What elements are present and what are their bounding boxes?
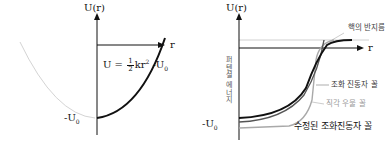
nuclear-radius-label: 핵의 반지름	[348, 24, 385, 32]
legend-modified-harmonic: 수정된 조화진동자 꼴	[294, 122, 372, 131]
legend-harmonic-oscillator: 조화 진동자 꼴	[331, 81, 378, 89]
u-axis-arrow-icon	[236, 13, 242, 20]
harmonic-potential-plot	[0, 0, 194, 152]
harmonic-curve	[97, 38, 165, 118]
potential-energy-axis-title: 퍼텐셜 에너지	[224, 56, 231, 104]
u-axis-label: U(r)	[226, 3, 247, 13]
square-well-curve	[239, 40, 334, 128]
u-axis-arrow-icon	[94, 13, 100, 20]
nuclear-potential-comparison-diagram: U(r) r -U0 퍼텐셜 에너지 핵의 반지름 조화 진동자 꼴 직각 우물…	[194, 0, 388, 152]
min-label: -U0	[202, 119, 218, 131]
leader-square	[312, 102, 324, 104]
harmonic-potential-diagram: U(r) r -U0 U = 12kr2 -U0	[0, 0, 194, 152]
r-axis-arrow-icon	[357, 45, 364, 51]
fraction: 12	[127, 58, 133, 73]
legend-square-well: 직각 우물 꼴	[326, 100, 366, 108]
u-axis-label: U(r)	[84, 3, 105, 13]
r-axis-label: r	[170, 40, 175, 50]
r-axis-label: r	[368, 43, 373, 53]
mirrored-curve	[20, 42, 95, 118]
min-label: -U0	[64, 113, 80, 125]
leader-radius	[332, 33, 344, 40]
harmonic-equation: U = 12kr2 -U0	[103, 58, 168, 73]
